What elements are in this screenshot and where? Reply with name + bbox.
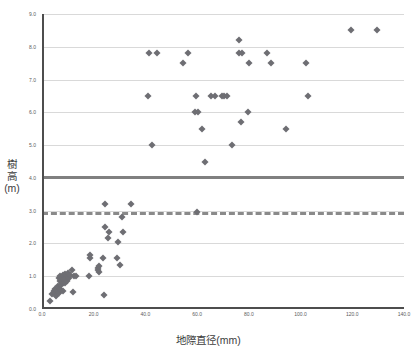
x-tick-label: 40.0	[141, 311, 151, 317]
y-tick-label: 1.0	[29, 273, 36, 279]
gridline	[42, 112, 404, 113]
y-tick-label: 0.0	[29, 306, 36, 312]
gridline	[42, 80, 404, 81]
x-tick-label: 80.0	[244, 311, 254, 317]
gridline	[42, 14, 404, 15]
y-axis-tick-labels: 0.01.02.03.04.05.06.07.08.09.0	[0, 14, 40, 309]
x-tick-label: 20.0	[89, 311, 99, 317]
gridline	[42, 276, 404, 277]
gridline	[42, 145, 404, 146]
y-tick-label: 6.0	[29, 109, 36, 115]
y-axis-line	[42, 14, 44, 309]
x-tick-label: 0.0	[39, 311, 46, 317]
x-axis-tick-labels: 0.020.040.060.080.0100.0120.0140.0	[42, 311, 404, 325]
y-tick-label: 7.0	[29, 77, 36, 83]
gridline	[42, 243, 404, 244]
x-tick-label: 120.0	[346, 311, 359, 317]
gridline	[42, 47, 404, 48]
y-tick-label: 9.0	[29, 11, 36, 17]
x-tick-label: 100.0	[294, 311, 307, 317]
reference-line-dashed-threshold	[42, 212, 404, 215]
plot-area	[42, 14, 404, 309]
x-tick-label: 140.0	[398, 311, 411, 317]
x-axis-title: 地際直径(mm)	[0, 332, 417, 347]
reference-line-solid-threshold	[42, 176, 404, 179]
x-tick-label: 60.0	[192, 311, 202, 317]
x-axis-line	[42, 307, 404, 309]
y-tick-label: 2.0	[29, 240, 36, 246]
y-tick-label: 3.0	[29, 208, 36, 214]
y-tick-label: 4.0	[29, 175, 36, 181]
y-tick-label: 5.0	[29, 142, 36, 148]
chart-figure: 樹高(m) 0.01.02.03.04.05.06.07.08.09.0 0.0…	[0, 0, 417, 351]
y-tick-label: 8.0	[29, 44, 36, 50]
